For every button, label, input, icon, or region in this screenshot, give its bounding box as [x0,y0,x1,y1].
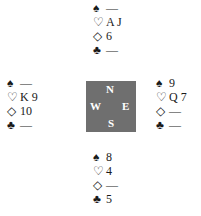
club-icon: ♣ [93,192,106,206]
north-diamonds: ◇6 [93,29,122,43]
west-hearts: ♡K 9 [7,90,38,104]
heart-icon: ♡ [156,90,169,104]
west-clubs: ♣— [7,118,38,132]
club-icon: ♣ [156,118,169,132]
diamond-icon: ◇ [156,104,169,118]
north-clubs: ♣— [93,43,122,57]
compass-table: N W E S [86,81,136,132]
south-hand: ♠8 ♡4 ◇— ♣5 [93,150,118,206]
compass-north: N [106,84,114,95]
east-diamonds: ◇— [156,104,187,118]
club-icon: ♣ [7,118,20,132]
spade-icon: ♠ [156,76,169,90]
south-clubs: ♣5 [93,192,118,206]
heart-icon: ♡ [93,15,106,29]
west-spades: ♠— [7,76,38,90]
west-hand: ♠— ♡K 9 ◇10 ♣— [7,76,38,132]
north-hand: ♠— ♡A J ◇6 ♣— [93,1,122,57]
east-clubs: ♣— [156,118,187,132]
south-diamonds: ◇— [93,178,118,192]
compass-south: S [108,118,114,129]
diamond-icon: ◇ [93,178,106,192]
heart-icon: ♡ [93,164,106,178]
compass-east: E [122,101,129,112]
diamond-icon: ◇ [7,104,20,118]
south-hearts: ♡4 [93,164,118,178]
spade-icon: ♠ [7,76,20,90]
heart-icon: ♡ [7,90,20,104]
diamond-icon: ◇ [93,29,106,43]
compass-west: W [90,101,101,112]
north-hearts: ♡A J [93,15,122,29]
east-hand: ♠9 ♡Q 7 ◇— ♣— [156,76,187,132]
north-spades: ♠— [93,1,122,15]
east-hearts: ♡Q 7 [156,90,187,104]
spade-icon: ♠ [93,150,106,164]
east-spades: ♠9 [156,76,187,90]
south-spades: ♠8 [93,150,118,164]
west-diamonds: ◇10 [7,104,38,118]
spade-icon: ♠ [93,1,106,15]
club-icon: ♣ [93,43,106,57]
